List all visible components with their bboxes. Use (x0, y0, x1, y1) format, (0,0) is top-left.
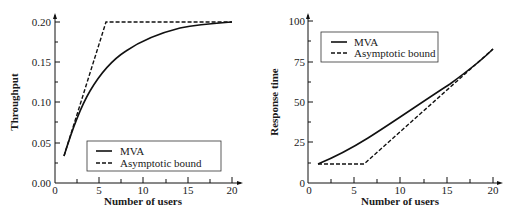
x-tick-label: 20 (227, 184, 239, 196)
x-tick-label: 0 (306, 184, 312, 196)
y-tick-label: 0.10 (32, 96, 52, 108)
x-ticks (331, 177, 493, 183)
legend-asymptotic-bound: Asymptotic bound (354, 47, 436, 59)
mva-throughput-line (64, 22, 232, 156)
legend: MVA Asymptotic bound (321, 32, 438, 62)
x-tick-label: 5 (351, 184, 357, 196)
throughput-chart: 0.20 0.15 0.10 0.05 0.00 0 5 10 15 20 Nu… (8, 13, 243, 207)
y-tick-label: 0 (300, 177, 306, 189)
y-tick-label: 0.05 (32, 137, 52, 149)
x-tick-label: 0 (52, 184, 58, 196)
y-tick-label: 50 (294, 96, 306, 108)
y-axis-label: Throughput (8, 73, 20, 131)
response-time-chart: 100 75 50 25 0 0 5 10 15 20 Number of us… (268, 13, 503, 207)
y-ticks (55, 22, 60, 163)
y-tick-label: 75 (294, 56, 306, 68)
x-axis-arrow-icon (237, 181, 243, 185)
mva-response-time-line (318, 49, 493, 164)
y-tick-label: 0.20 (32, 16, 52, 28)
legend: MVA Asymptotic bound (87, 141, 221, 171)
y-axis-arrow-icon (53, 13, 57, 19)
x-axis-label: Number of users (361, 195, 440, 207)
figure: 0.20 0.15 0.10 0.05 0.00 0 5 10 15 20 Nu… (0, 0, 505, 212)
y-axis-label: Response time (268, 68, 280, 136)
y-tick-label: 25 (294, 136, 306, 148)
y-tick-label: 0.00 (32, 177, 52, 189)
x-axis-label: Number of users (104, 195, 183, 207)
y-ticks (308, 21, 313, 163)
x-tick-label: 5 (96, 184, 102, 196)
y-tick-label: 0.15 (32, 56, 52, 68)
x-tick-label: 20 (488, 184, 500, 196)
asymptotic-bound-throughput-line (64, 22, 232, 156)
x-tick-label: 15 (442, 184, 454, 196)
y-axis-arrow-icon (306, 13, 310, 19)
legend-mva: MVA (120, 145, 144, 157)
legend-asymptotic-bound: Asymptotic bound (120, 157, 202, 169)
x-tick-label: 15 (183, 184, 195, 196)
asymptotic-bound-response-time-line (318, 49, 493, 164)
y-tick-label: 100 (289, 15, 306, 27)
x-ticks (77, 177, 232, 183)
